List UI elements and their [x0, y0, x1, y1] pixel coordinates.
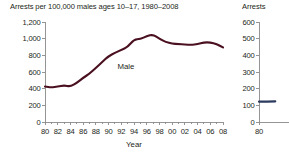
x-tick-label: 94	[130, 127, 138, 136]
x-axis-title: Year	[126, 140, 142, 149]
x-tick-label: 86	[79, 127, 87, 136]
y-tick-label: 200	[28, 101, 40, 110]
y-tick-label: 600	[242, 18, 254, 27]
y-tick-label: 800	[28, 51, 40, 60]
side-chart-panel: Arrests 010020030040050060080	[228, 0, 289, 156]
y-tick-label: 0	[250, 118, 254, 127]
y-tick-label: 300	[242, 68, 254, 77]
x-tick-label: 06	[206, 127, 214, 136]
y-tick-label: 500	[242, 34, 254, 43]
x-tick-label: 92	[117, 127, 125, 136]
x-tick-label: 00	[168, 127, 176, 136]
x-tick-label: 90	[105, 127, 113, 136]
x-tick-label: 98	[155, 127, 163, 136]
y-tick-label: 400	[28, 84, 40, 93]
x-tick-label: 80	[255, 127, 263, 136]
x-tick-label: 82	[54, 127, 62, 136]
x-tick-label: 84	[66, 127, 74, 136]
x-tick-label: 96	[143, 127, 151, 136]
x-tick-label: 88	[92, 127, 100, 136]
y-tick-label: 1,000	[22, 34, 40, 43]
side-chart-plot: 010020030040050060080	[228, 0, 289, 156]
y-tick-label: 100	[242, 101, 254, 110]
y-tick-label: 400	[242, 51, 254, 60]
y-tick-label: 1,200	[22, 18, 40, 27]
series-label-male: Male	[117, 62, 134, 71]
x-tick-label: 80	[41, 127, 49, 136]
x-tick-label: 08	[219, 127, 227, 136]
y-tick-label: 200	[242, 84, 254, 93]
x-tick-label: 04	[194, 127, 202, 136]
y-tick-label: 0	[36, 118, 40, 127]
x-tick-label: 02	[181, 127, 189, 136]
main-chart-panel: Arrests per 100,000 males ages 10–17, 19…	[0, 0, 228, 156]
main-chart-plot: 02004006008001,0001,20080828486889092949…	[0, 0, 228, 156]
figure-container: Arrests per 100,000 males ages 10–17, 19…	[0, 0, 289, 156]
y-tick-label: 600	[28, 68, 40, 77]
